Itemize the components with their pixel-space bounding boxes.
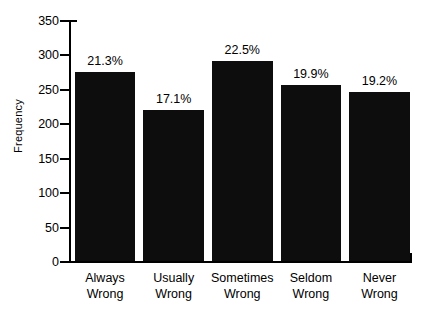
y-tick-label: 350	[11, 15, 59, 28]
bar	[281, 85, 342, 261]
y-tick-mark	[60, 158, 69, 160]
category-label-line2: Wrong	[290, 286, 332, 302]
bar-value-label: 17.1%	[156, 93, 191, 106]
bar	[75, 72, 136, 261]
y-tick-mark	[60, 89, 69, 91]
category-label: AlwaysWrong	[85, 270, 125, 302]
bar-chart: Frequency 050100150200250300350 21.3%17.…	[0, 0, 434, 312]
y-tick-label: 0	[11, 256, 59, 269]
y-axis-line	[69, 20, 71, 263]
y-tick-mark	[60, 54, 69, 56]
category-label: SeldomWrong	[290, 270, 332, 302]
y-tick-mark	[60, 261, 69, 263]
y-tick-label: 150	[11, 152, 59, 165]
category-label-line1: Sometimes	[211, 271, 274, 285]
y-tick-label: 250	[11, 84, 59, 97]
plot-area: 050100150200250300350 21.3%17.1%22.5%19.…	[69, 20, 412, 263]
category-label-line1: Usually	[153, 271, 194, 285]
y-tick-label: 50	[11, 221, 59, 234]
y-tick-mark	[60, 123, 69, 125]
category-label-line1: Always	[85, 271, 125, 285]
category-label: NeverWrong	[361, 270, 398, 302]
category-label-line2: Wrong	[361, 286, 398, 302]
category-label-line1: Never	[363, 271, 396, 285]
y-tick-mark	[60, 227, 69, 229]
category-label-line2: Wrong	[211, 286, 274, 302]
category-label-line1: Seldom	[290, 271, 332, 285]
y-tick-mark	[60, 20, 69, 22]
bar	[349, 92, 410, 261]
category-label: UsuallyWrong	[153, 270, 194, 302]
bar-value-label: 19.9%	[293, 68, 328, 81]
y-tick-mark	[60, 192, 69, 194]
bar	[212, 61, 273, 261]
bar-value-label: 21.3%	[87, 55, 122, 68]
bar	[143, 110, 204, 261]
y-tick-label: 100	[11, 187, 59, 200]
x-axis-line	[69, 261, 412, 263]
y-tick-label: 300	[11, 49, 59, 62]
bar-value-label: 19.2%	[362, 75, 397, 88]
x-axis-right-cap	[410, 253, 412, 263]
bar-value-label: 22.5%	[225, 44, 260, 57]
category-label: SometimesWrong	[211, 270, 274, 302]
category-label-line2: Wrong	[85, 286, 125, 302]
y-tick-label: 200	[11, 118, 59, 131]
category-label-line2: Wrong	[153, 286, 194, 302]
y-axis-top-cap	[69, 20, 77, 22]
